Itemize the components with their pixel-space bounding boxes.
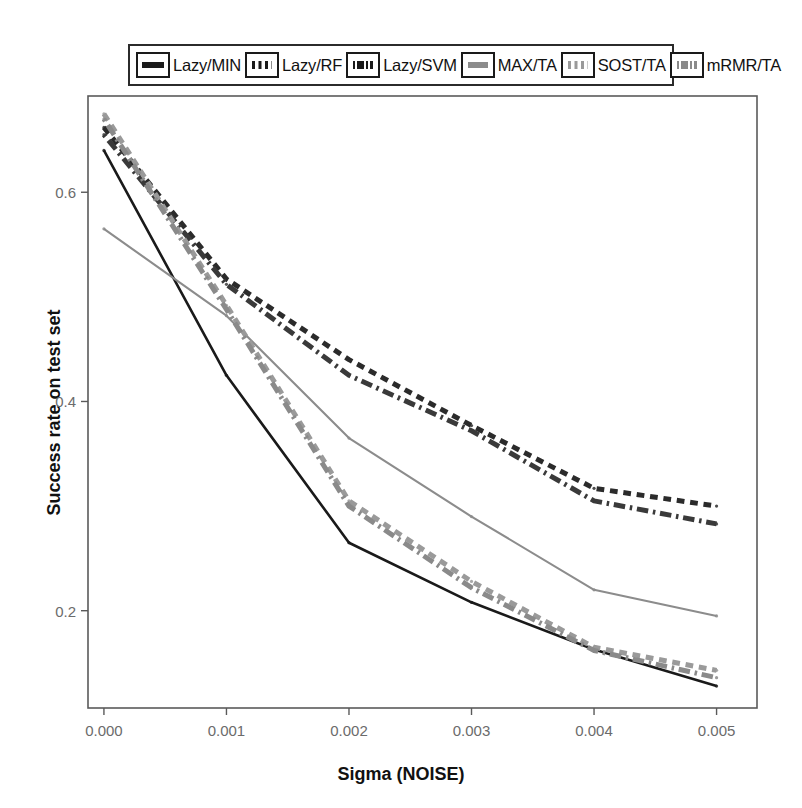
data-point xyxy=(347,541,350,544)
y-tick-label: 0.4 xyxy=(32,393,76,410)
data-point xyxy=(715,669,718,672)
data-point xyxy=(225,283,228,286)
data-point xyxy=(715,614,718,617)
x-tick-label: 0.002 xyxy=(330,722,368,739)
data-point xyxy=(102,133,105,136)
data-point xyxy=(470,429,473,432)
y-tick-label: 0.6 xyxy=(32,184,76,201)
series-line-mrmr-ta xyxy=(104,119,717,678)
data-point xyxy=(715,684,718,687)
series-line-lazy-min xyxy=(104,150,717,686)
series-line-lazy-svm xyxy=(104,135,717,524)
plot-area xyxy=(0,0,802,808)
data-point xyxy=(470,424,473,427)
data-point xyxy=(347,358,350,361)
x-tick-label: 0.005 xyxy=(698,722,736,739)
data-point xyxy=(470,580,473,583)
data-point xyxy=(225,308,228,311)
data-point xyxy=(715,522,718,525)
x-axis-title: Sigma (NOISE) xyxy=(0,764,802,785)
data-point xyxy=(592,487,595,490)
data-point xyxy=(347,504,350,507)
data-point xyxy=(102,149,105,152)
data-point xyxy=(592,588,595,591)
data-point xyxy=(715,504,718,507)
plot-frame xyxy=(88,96,757,708)
data-point xyxy=(347,374,350,377)
series-line-max-ta xyxy=(104,229,717,616)
y-tick-label: 0.2 xyxy=(32,602,76,619)
data-point xyxy=(102,112,105,115)
x-tick-label: 0.003 xyxy=(453,722,491,739)
data-point xyxy=(347,436,350,439)
data-point xyxy=(102,126,105,129)
data-point xyxy=(470,515,473,518)
data-point xyxy=(592,649,595,652)
chart-figure: Lazy/MIN Lazy/RF Lazy/SVM xyxy=(0,0,802,808)
x-tick-label: 0.001 xyxy=(208,722,246,739)
x-tick-label: 0.004 xyxy=(575,722,613,739)
data-point xyxy=(470,586,473,589)
data-point xyxy=(102,117,105,120)
data-point xyxy=(225,314,228,317)
data-point xyxy=(225,374,228,377)
y-axis-title: Success rate on test set xyxy=(44,233,65,593)
data-point xyxy=(470,601,473,604)
x-tick-label: 0.000 xyxy=(85,722,123,739)
data-point xyxy=(715,676,718,679)
data-point xyxy=(592,499,595,502)
data-point xyxy=(102,227,105,230)
